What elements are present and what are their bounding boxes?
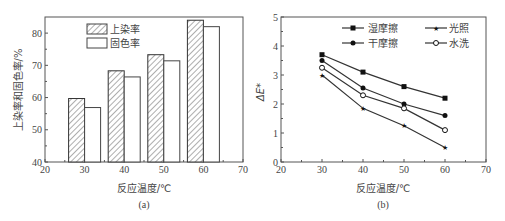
chart-b-y-axis: 012345 [273,12,284,168]
chart-b-caption: (b) [377,199,389,211]
legend-label-wash: 水洗 [449,38,469,49]
chart-a-y-axis: 4050607080 [32,28,48,168]
chart-b-lines: ★★★★ [319,52,448,152]
svg-text:50: 50 [32,124,42,135]
legend-label-dye-uptake: 上染率 [110,23,140,35]
data-point [320,58,325,63]
data-point [320,52,325,57]
svg-text:30: 30 [80,164,90,175]
chart-b-x-axis-label: 反应温度/℃ [356,182,411,194]
svg-text:5: 5 [273,12,278,23]
chart-b-line: 203040506070 012345 ★★★★ 湿摩擦 ★ 光照 干摩擦 水洗… [255,12,491,212]
data-point [402,84,407,89]
svg-text:40: 40 [358,164,368,175]
data-point [361,86,366,91]
legend-label-light: 光照 [449,22,469,34]
series-line [322,75,445,148]
svg-text:80: 80 [32,28,42,39]
data-point [402,106,407,111]
data-point: ★ [319,72,325,80]
data-point [320,65,325,70]
svg-text:60: 60 [440,164,450,175]
data-point [443,128,448,133]
bar-dye-uptake-50 [148,55,164,162]
svg-text:30: 30 [317,164,327,175]
svg-text:50: 50 [159,164,169,175]
chart-a-caption: (a) [138,199,149,211]
square-marker-icon [351,26,356,31]
chart-a-y-axis-label: 上染率和固色率/% [12,49,24,132]
svg-text:70: 70 [32,60,42,71]
series-line [322,68,445,130]
svg-text:4: 4 [273,41,278,52]
bar-dye-uptake-60 [187,20,203,162]
chart-a-bar: 203040506070 4050607080 上染率 固色率 反应温度/℃ 上… [12,17,248,211]
bar-fixation-30 [85,108,101,162]
series-line [322,61,445,116]
data-point [361,70,366,75]
bar-fixation-60 [203,27,219,162]
bar-dye-uptake-30 [69,99,85,162]
chart-b-legend: 湿摩擦 ★ 光照 干摩擦 水洗 [342,22,469,49]
legend-label-fixation: 固色率 [110,37,140,49]
data-point [443,96,448,101]
bar-dye-uptake-40 [108,71,124,162]
bar-fixation-40 [124,77,140,162]
legend-swatch-hatched [87,24,107,34]
series-line [322,55,445,98]
svg-text:40: 40 [119,164,129,175]
chart-a-legend: 上染率 固色率 [87,23,140,49]
legend-swatch-open [87,38,107,48]
svg-text:1: 1 [273,128,278,139]
bar-fixation-50 [164,61,180,162]
svg-text:50: 50 [399,164,409,175]
filled-circle-marker-icon [351,41,356,46]
legend-label-dry-rub: 干摩擦 [368,37,398,49]
svg-text:0: 0 [273,157,278,168]
data-point: ★ [442,144,448,152]
chart-a-x-axis-label: 反应温度/℃ [117,182,172,194]
svg-text:60: 60 [198,164,208,175]
svg-text:3: 3 [273,70,278,81]
svg-text:40: 40 [32,157,42,168]
data-point: ★ [360,105,366,113]
svg-text:70: 70 [238,164,248,175]
chart-b-y-axis-label: ΔE* [255,83,266,102]
data-point: ★ [401,122,407,130]
legend-label-wet-rub: 湿摩擦 [368,22,398,34]
data-point [361,93,366,98]
svg-text:60: 60 [32,92,42,103]
svg-text:70: 70 [481,164,491,175]
chart-b-x-axis: 203040506070 [276,159,491,175]
star-marker-icon: ★ [433,25,439,33]
data-point [443,113,448,118]
open-circle-marker-icon [434,41,439,46]
svg-text:2: 2 [273,99,278,110]
